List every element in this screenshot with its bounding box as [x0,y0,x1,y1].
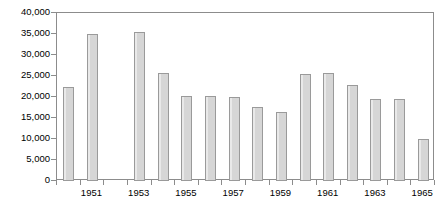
x-tick-label: 1957 [223,188,244,198]
y-tick-mark [51,117,56,118]
x-tick-mark [151,180,152,185]
y-tick-label: 40,000 [0,7,50,17]
bar [418,139,429,181]
x-tick-mark [434,180,435,185]
y-tick-mark [51,75,56,76]
bar [181,96,192,181]
x-tick-mark [198,180,199,185]
x-tick-label: 1955 [175,188,196,198]
x-tick-mark [410,180,411,185]
y-tick-mark [51,12,56,13]
bar [87,34,98,181]
x-tick-label: 1959 [270,188,291,198]
x-tick-mark [174,180,175,185]
x-tick-mark [269,180,270,185]
y-tick-mark [51,159,56,160]
bar [63,87,74,182]
bar [370,99,381,181]
x-tick-label: 1965 [412,188,433,198]
y-tick-mark [51,138,56,139]
y-tick-label: 35,000 [0,28,50,38]
x-tick-mark [316,180,317,185]
bar [252,107,263,181]
bar [134,32,145,181]
bar [394,99,405,181]
plot-area [56,12,434,180]
bar [158,73,169,181]
y-tick-label: 10,000 [0,133,50,143]
bar [300,74,311,181]
bar-chart-screenshot: 05,00010,00015,00020,00025,00030,00035,0… [0,0,444,210]
x-tick-mark [387,180,388,185]
x-tick-label: 1963 [364,188,385,198]
x-tick-mark [80,180,81,185]
bar [229,97,240,181]
y-tick-label: 0 [0,175,50,185]
bar [205,96,216,181]
y-tick-label: 25,000 [0,70,50,80]
y-tick-label: 15,000 [0,112,50,122]
x-tick-label: 1961 [317,188,338,198]
y-axis: 05,00010,00015,00020,00025,00030,00035,0… [0,0,50,210]
y-tick-mark [51,96,56,97]
y-tick-mark [51,54,56,55]
x-tick-label: 1951 [81,188,102,198]
x-tick-label: 1953 [128,188,149,198]
y-tick-label: 20,000 [0,91,50,101]
x-tick-mark [245,180,246,185]
x-tick-mark [340,180,341,185]
x-tick-mark [363,180,364,185]
bar [276,112,287,181]
bar [323,73,334,181]
x-tick-mark [221,180,222,185]
y-tick-label: 30,000 [0,49,50,59]
y-tick-mark [51,33,56,34]
bar [347,85,358,181]
x-tick-mark [127,180,128,185]
x-tick-mark [103,180,104,185]
x-tick-mark [292,180,293,185]
x-tick-mark [56,180,57,185]
y-tick-label: 5,000 [0,154,50,164]
